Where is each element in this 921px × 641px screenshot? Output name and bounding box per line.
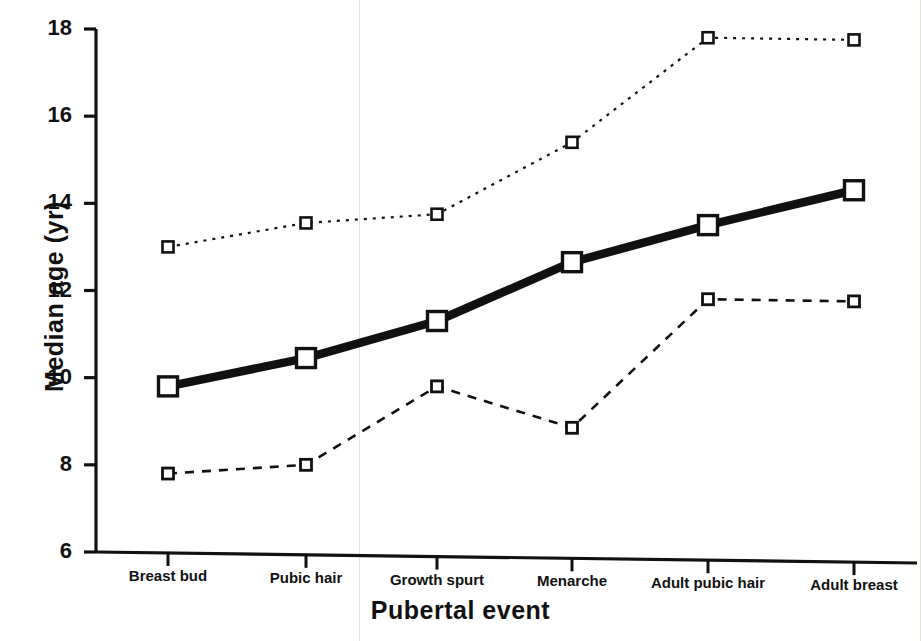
x-axis-title: Pubertal event: [0, 596, 921, 625]
data-point-marker: [567, 137, 578, 148]
series-line-2: [168, 299, 854, 473]
x-tick-label-menarche: Menarche: [537, 572, 607, 589]
data-point-marker: [428, 312, 447, 331]
data-point-marker: [703, 32, 714, 43]
chart-figure: Median age (yr) Pubertal event 181614121…: [0, 0, 921, 641]
data-point-marker: [301, 217, 312, 228]
x-tick-label-growth-spurt: Growth spurt: [390, 571, 484, 588]
data-point-marker: [432, 381, 443, 392]
y-tick-label: 8: [26, 451, 72, 477]
plot-area: [0, 0, 921, 641]
y-tick-label: 18: [26, 15, 72, 41]
x-tick-label-adult-pubic-hair: Adult pubic hair: [651, 574, 765, 591]
data-point-marker: [563, 253, 582, 272]
x-tick-label-breast-bud: Breast bud: [129, 567, 207, 584]
data-point-marker: [301, 459, 312, 470]
data-point-marker: [849, 34, 860, 45]
series-line-1: [168, 190, 854, 386]
data-point-marker: [567, 422, 578, 433]
x-tick-label-adult-breast: Adult breast: [810, 576, 898, 593]
data-point-marker: [845, 181, 864, 200]
data-point-marker: [163, 468, 174, 479]
y-tick-label: 6: [26, 538, 72, 564]
y-tick-label: 12: [26, 277, 72, 303]
y-tick-label: 16: [26, 102, 72, 128]
y-tick-label: 10: [26, 364, 72, 390]
y-tick-label: 14: [26, 189, 72, 215]
data-point-marker: [159, 377, 178, 396]
data-point-marker: [297, 349, 316, 368]
data-point-marker: [432, 209, 443, 220]
data-point-marker: [849, 296, 860, 307]
x-tick-label-pubic-hair: Pubic hair: [270, 569, 343, 586]
data-point-marker: [703, 294, 714, 305]
data-point-marker: [699, 216, 718, 235]
data-point-marker: [163, 241, 174, 252]
x-axis-line: [96, 552, 917, 563]
